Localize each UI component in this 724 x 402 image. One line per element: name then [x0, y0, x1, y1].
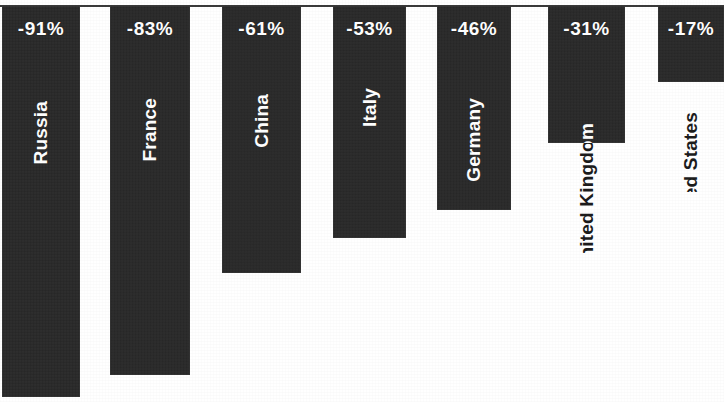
bar-china[interactable] — [222, 6, 301, 273]
bar-france[interactable] — [110, 6, 190, 375]
category-label-united-kingdom-overflow: United Kingdom — [548, 143, 625, 253]
bar-group-russia[interactable]: -91% Russia — [2, 6, 80, 397]
bar-group-united-kingdom[interactable]: -31% United Kingdom United Kingdom — [548, 6, 625, 143]
value-label-russia: -91% — [2, 18, 80, 40]
bar-group-italy[interactable]: -53% Italy — [333, 6, 406, 238]
category-label-united-states-overflow: United States — [658, 82, 724, 192]
category-label-united-kingdom-dark: United Kingdom — [576, 143, 598, 253]
bar-chart: -91% Russia -83% France -61% China -53% — [0, 0, 724, 402]
value-label-united-kingdom: -31% — [548, 18, 625, 40]
bar-group-china[interactable]: -61% China — [222, 6, 301, 273]
value-label-italy: -53% — [333, 18, 406, 40]
bar-group-germany[interactable]: -46% Germany — [437, 6, 511, 210]
plot-area: -91% Russia -83% France -61% China -53% — [0, 0, 724, 402]
value-label-germany: -46% — [437, 18, 511, 40]
bar-italy[interactable] — [333, 6, 406, 238]
bar-group-united-states[interactable]: -17% United States United States — [658, 6, 724, 82]
value-label-china: -61% — [222, 18, 301, 40]
value-label-france: -83% — [110, 18, 190, 40]
value-label-united-states: -17% — [658, 18, 724, 40]
category-label-united-states-dark: United States — [680, 112, 702, 192]
bar-group-france[interactable]: -83% France — [110, 6, 190, 375]
bar-russia[interactable] — [2, 6, 80, 397]
